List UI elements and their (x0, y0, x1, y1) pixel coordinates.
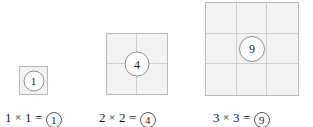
equals-sign: = (129, 110, 137, 126)
square-number-group-2: 4 2 × 2 = 4 (90, 0, 195, 127)
caption-result-badge: 4 (140, 112, 156, 127)
caption-result-badge: 9 (254, 112, 270, 127)
equals-sign: = (35, 110, 43, 126)
square-number-group-3: 9 3 × 3 = 9 (195, 0, 313, 127)
grid-cell (237, 3, 268, 34)
grid-cell (206, 34, 237, 65)
equals-sign: = (243, 110, 251, 126)
grid-cell (206, 64, 237, 95)
grid-cell (267, 64, 298, 95)
grid-square-1x1: 1 (19, 66, 48, 95)
caption-3x3: 3 × 3 = 9 (213, 110, 270, 126)
multiplication-sign-icon: × (109, 111, 116, 123)
caption-right-factor: 3 (233, 110, 240, 126)
center-count-badge: 4 (125, 52, 150, 77)
caption-left-factor: 3 (213, 110, 220, 126)
caption-right-factor: 1 (25, 110, 32, 126)
multiplication-sign-icon: × (223, 111, 230, 123)
square-number-group-1: 1 1 × 1 = 1 (0, 0, 90, 127)
grid-cell (206, 3, 237, 34)
grid-cell (267, 3, 298, 34)
grid-square-3x3: 9 (205, 2, 299, 96)
center-count-badge: 9 (239, 36, 265, 62)
grid-cell (267, 34, 298, 65)
center-count-badge: 1 (23, 70, 44, 91)
caption-result-badge: 1 (46, 112, 62, 127)
caption-left-factor: 2 (99, 110, 106, 126)
caption-right-factor: 2 (119, 110, 126, 126)
multiplication-sign-icon: × (15, 111, 22, 123)
caption-1x1: 1 × 1 = 1 (5, 110, 62, 126)
caption-2x2: 2 × 2 = 4 (99, 110, 156, 126)
square-numbers-figure: 1 1 × 1 = 1 4 2 × 2 = 4 (0, 0, 313, 127)
grid-square-2x2: 4 (106, 33, 168, 95)
caption-left-factor: 1 (5, 110, 12, 126)
grid-cell (237, 64, 268, 95)
